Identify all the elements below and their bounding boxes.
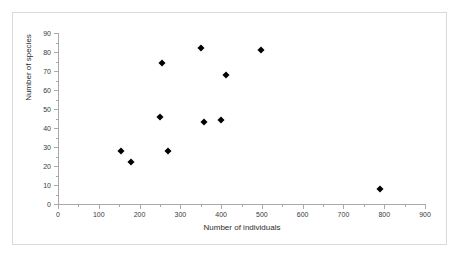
x-tick-minor [282,205,283,207]
y-tick-major [54,71,58,72]
y-tick-major [54,33,58,34]
y-tick-label: 30 [43,144,51,151]
x-tick-major [221,205,222,209]
x-axis-title: Number of individuals [58,223,426,232]
y-tick-major [54,185,58,186]
scatter-plot-area [58,33,425,204]
y-tick-minor [56,157,58,158]
y-tick-label: 0 [47,201,51,208]
y-tick-minor [56,119,58,120]
y-axis-line [58,33,59,205]
x-tick-label: 800 [378,211,390,218]
x-tick-minor [78,205,79,207]
y-tick-label: 50 [43,106,51,113]
y-tick-minor [56,43,58,44]
x-tick-minor [119,205,120,207]
y-tick-label: 80 [43,49,51,56]
x-tick-major [343,205,344,209]
x-tick-minor [323,205,324,207]
y-tick-major [54,147,58,148]
y-tick-label: 10 [43,182,51,189]
y-tick-label: 70 [43,68,51,75]
y-tick-minor [56,176,58,177]
x-tick-label: 900 [419,211,431,218]
x-tick-major [262,205,263,209]
x-tick-minor [160,205,161,207]
x-tick-minor [201,205,202,207]
y-tick-major [54,90,58,91]
x-tick-label: 0 [56,211,60,218]
y-tick-minor [56,138,58,139]
y-tick-major [54,128,58,129]
y-tick-major [54,166,58,167]
chart-figure: 0100200300400500600700800900 01020304050… [12,12,447,245]
y-tick-label: 90 [43,30,51,37]
y-tick-label: 20 [43,163,51,170]
y-tick-label: 60 [43,87,51,94]
y-tick-major [54,109,58,110]
x-tick-minor [405,205,406,207]
y-axis-title: Number of species [24,8,33,128]
x-tick-label: 200 [134,211,146,218]
x-tick-major [303,205,304,209]
y-tick-minor [56,62,58,63]
y-tick-label: 40 [43,125,51,132]
y-tick-minor [56,100,58,101]
x-tick-major [384,205,385,209]
x-tick-label: 100 [93,211,105,218]
y-tick-minor [56,81,58,82]
x-tick-major [99,205,100,209]
x-tick-major [180,205,181,209]
x-tick-major [140,205,141,209]
x-tick-major [58,205,59,209]
y-tick-minor [56,195,58,196]
x-tick-label: 500 [256,211,268,218]
x-tick-label: 300 [174,211,186,218]
x-tick-major [425,205,426,209]
x-tick-label: 600 [297,211,309,218]
x-tick-label: 400 [215,211,227,218]
x-tick-minor [242,205,243,207]
x-tick-minor [364,205,365,207]
y-tick-major [54,52,58,53]
y-tick-major [54,204,58,205]
x-tick-label: 700 [338,211,350,218]
